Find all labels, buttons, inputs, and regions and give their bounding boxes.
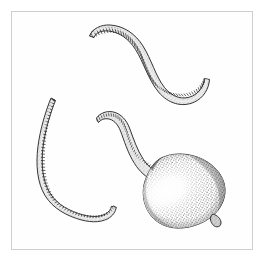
figure-root: Nematode specimens (pen-and-ink scientif… <box>0 0 265 261</box>
specimen-female-swollen <box>96 112 234 237</box>
nematode-illustration <box>0 0 265 261</box>
worm-top-stipple <box>90 25 210 105</box>
female-posterior-nub-stipple <box>210 214 221 227</box>
female-lemon-body <box>130 148 233 236</box>
specimen-worm-top <box>90 25 210 105</box>
